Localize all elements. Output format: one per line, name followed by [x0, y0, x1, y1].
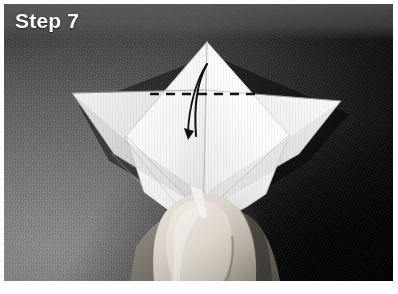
instruction-photograph: Step 7 [4, 4, 393, 281]
step-caption-label: Step 7 [15, 9, 79, 33]
fold-arrow-head [184, 128, 194, 140]
fold-annotations [4, 4, 393, 281]
fold-arrow [188, 64, 207, 136]
photo-page: Step 7 [0, 0, 398, 294]
